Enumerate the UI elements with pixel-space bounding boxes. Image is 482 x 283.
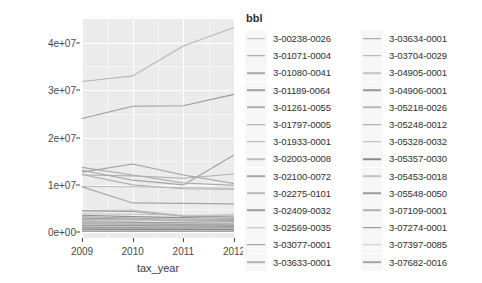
legend-item[interactable]: 3-03077-0001 <box>245 236 331 253</box>
legend-item[interactable]: 3-01797-0005 <box>245 116 331 133</box>
legend-item[interactable]: 3-01189-0064 <box>245 82 331 99</box>
legend-key-swatch <box>361 133 383 150</box>
legend: bbl 3-00238-00263-01071-00043-01080-0041… <box>243 10 482 280</box>
series-line <box>82 28 234 82</box>
x-tick-mark <box>234 238 235 242</box>
legend-item[interactable]: 3-05548-0050 <box>361 185 447 202</box>
legend-key-swatch <box>361 236 383 253</box>
legend-item[interactable]: 3-03634-0001 <box>361 30 447 47</box>
legend-item[interactable]: 3-07274-0001 <box>361 219 447 236</box>
legend-key-swatch <box>245 82 267 99</box>
legend-item[interactable]: 3-02275-0101 <box>245 185 331 202</box>
legend-label: 3-01261-0055 <box>273 102 331 113</box>
legend-item[interactable]: 3-05328-0032 <box>361 133 447 150</box>
legend-item[interactable]: 3-03704-0029 <box>361 47 447 64</box>
plot-area: full_market_value 0e+001e+072e+073e+074e… <box>0 0 241 283</box>
legend-item[interactable]: 3-01071-0004 <box>245 47 331 64</box>
legend-label: 3-07682-0016 <box>389 257 447 268</box>
legend-label: 3-07397-0085 <box>389 239 447 250</box>
x-tick-mark <box>82 238 83 242</box>
legend-item[interactable]: 3-01933-0001 <box>245 133 331 150</box>
legend-key-swatch <box>245 236 267 253</box>
legend-item[interactable]: 3-07682-0016 <box>361 253 447 270</box>
series-line <box>82 164 234 183</box>
legend-column-1: 3-03634-00013-03704-00293-04905-00013-04… <box>361 30 447 271</box>
y-tick-mark <box>76 232 80 233</box>
legend-label: 3-05453-0018 <box>389 171 447 182</box>
legend-key-swatch <box>361 219 383 236</box>
legend-label: 3-01189-0064 <box>273 85 330 96</box>
x-axis-title: tax_year <box>82 262 234 274</box>
y-tick-label: 3e+07 <box>28 85 76 96</box>
legend-item[interactable]: 3-02569-0035 <box>245 219 331 236</box>
legend-key-swatch <box>361 116 383 133</box>
gridline-vertical <box>234 19 235 238</box>
legend-key-swatch <box>245 133 267 150</box>
y-tick-mark <box>76 137 80 138</box>
y-tick-label: 4e+07 <box>28 37 76 48</box>
legend-title: bbl <box>246 12 263 24</box>
legend-key-swatch <box>361 150 383 167</box>
x-tick-label: 2011 <box>173 246 195 257</box>
legend-label: 3-05357-0030 <box>389 153 447 164</box>
y-tick-mark <box>76 184 80 185</box>
legend-label: 3-03704-0029 <box>389 50 447 61</box>
legend-label: 3-02003-0008 <box>273 153 331 164</box>
legend-item[interactable]: 3-02003-0008 <box>245 150 331 167</box>
legend-label: 3-03634-0001 <box>389 33 447 44</box>
legend-item[interactable]: 3-07109-0001 <box>361 202 447 219</box>
legend-item[interactable]: 3-05357-0030 <box>361 150 447 167</box>
x-tick-mark <box>133 238 134 242</box>
legend-label: 3-02569-0035 <box>273 222 331 233</box>
legend-item[interactable]: 3-01261-0055 <box>245 99 331 116</box>
legend-label: 3-01071-0004 <box>273 50 331 61</box>
legend-key-swatch <box>361 47 383 64</box>
legend-label: 3-05248-0012 <box>389 119 447 130</box>
y-tick-label: 0e+00 <box>28 227 76 238</box>
legend-key-swatch <box>245 168 267 185</box>
legend-label: 3-04905-0001 <box>389 67 447 78</box>
legend-label: 3-01933-0001 <box>273 136 331 147</box>
legend-item[interactable]: 3-05248-0012 <box>361 116 447 133</box>
legend-item[interactable]: 3-03633-0001 <box>245 253 331 270</box>
legend-key-swatch <box>361 185 383 202</box>
x-tick-label: 2009 <box>71 246 93 257</box>
legend-key-swatch <box>245 116 267 133</box>
y-tick-mark <box>76 42 80 43</box>
legend-label: 3-05548-0050 <box>389 188 447 199</box>
legend-label: 3-02100-0072 <box>273 171 331 182</box>
x-tick-label: 2012 <box>223 246 245 257</box>
x-axis-ticks <box>82 238 234 246</box>
legend-item[interactable]: 3-07397-0085 <box>361 236 447 253</box>
legend-item[interactable]: 3-00238-0026 <box>245 30 331 47</box>
plot-panel <box>82 19 234 238</box>
legend-column-0: 3-00238-00263-01071-00043-01080-00413-01… <box>245 30 331 271</box>
legend-item[interactable]: 3-04906-0001 <box>361 82 447 99</box>
y-tick-mark <box>76 90 80 91</box>
legend-label: 3-00238-0026 <box>273 33 331 44</box>
legend-key-swatch <box>245 150 267 167</box>
legend-key-swatch <box>245 185 267 202</box>
legend-label: 3-01080-0041 <box>273 67 331 78</box>
legend-key-swatch <box>245 254 267 271</box>
legend-label: 3-02275-0101 <box>273 188 331 199</box>
series-lines <box>82 19 234 238</box>
legend-label: 3-04906-0001 <box>389 85 447 96</box>
legend-item[interactable]: 3-01080-0041 <box>245 64 331 81</box>
legend-item[interactable]: 3-05453-0018 <box>361 168 447 185</box>
legend-label: 3-02409-0032 <box>273 205 331 216</box>
legend-key-swatch <box>361 82 383 99</box>
legend-key-swatch <box>245 202 267 219</box>
legend-label: 3-03077-0001 <box>273 239 331 250</box>
y-tick-label: 2e+07 <box>28 132 76 143</box>
legend-key-swatch <box>361 30 383 47</box>
legend-key-swatch <box>361 254 383 271</box>
legend-item[interactable]: 3-05218-0026 <box>361 99 447 116</box>
y-axis-ticks: 0e+001e+072e+073e+074e+07 <box>24 0 76 283</box>
legend-item[interactable]: 3-04905-0001 <box>361 64 447 81</box>
legend-item[interactable]: 3-02409-0032 <box>245 202 331 219</box>
legend-item[interactable]: 3-02100-0072 <box>245 168 331 185</box>
series-line <box>82 94 234 118</box>
y-tick-label: 1e+07 <box>28 179 76 190</box>
legend-label: 3-03633-0001 <box>273 257 331 268</box>
